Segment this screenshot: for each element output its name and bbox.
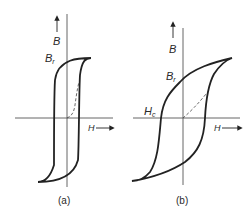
panel-a-h-label: H	[88, 123, 95, 133]
panel-b-hc-label: Hc	[144, 105, 156, 118]
panel-a-b-label: B	[53, 35, 60, 47]
panel-a: B Br H (a)	[15, 14, 113, 206]
panel-b: B Br Hc H (b)	[132, 24, 240, 206]
panel-a-caption: (a)	[58, 195, 70, 206]
panel-b-b-label: B	[169, 43, 176, 55]
panel-b-caption: (b)	[176, 195, 188, 206]
hysteresis-figure: B Br H (a) B Br Hc H (b)	[0, 0, 249, 216]
panel-b-hysteresis-loop	[132, 58, 232, 181]
panel-b-br-label: Br	[166, 70, 176, 83]
panel-b-initial-curve	[183, 94, 206, 118]
panel-a-hysteresis-loop	[38, 58, 91, 182]
panel-b-h-label: H	[214, 123, 221, 133]
panel-a-initial-curve	[67, 82, 79, 118]
panel-a-br-label: Br	[45, 52, 55, 65]
